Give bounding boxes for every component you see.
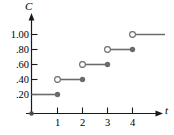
y-axis-ticks (32, 35, 38, 95)
step-segment-40 (55, 77, 86, 83)
y-axis-title: C (25, 1, 32, 12)
step-segment-60 (80, 62, 111, 68)
x-axis-ticks (58, 108, 133, 114)
x-tick-label-3: 3 (101, 118, 115, 129)
x-tick-label-2: 2 (76, 118, 90, 129)
y-tick-label-20: .20 (0, 90, 29, 101)
x-tick-label-1: 1 (51, 118, 65, 129)
y-tick-label-80: .80 (0, 45, 29, 56)
y-tick-label-100: 1.00 (0, 30, 29, 41)
step-segment-20 (32, 92, 61, 97)
y-tick-label-60: .60 (0, 60, 29, 71)
x-tick-label-4: 4 (126, 118, 140, 129)
x-axis-title: t (165, 105, 168, 116)
step-function-chart: C t 1.00 .80 .60 .40 .20 1 2 3 4 (0, 0, 174, 135)
y-tick-label-40: .40 (0, 75, 29, 86)
origin-marker (29, 111, 34, 116)
y-axis (29, 13, 35, 114)
step-segment-100 (130, 32, 165, 38)
x-axis (26, 111, 163, 117)
step-segment-80 (105, 47, 136, 53)
